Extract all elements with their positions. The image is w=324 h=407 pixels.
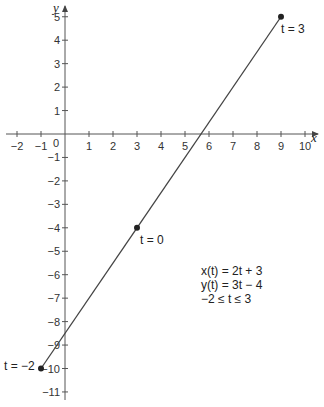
y-tick-label: −1	[47, 151, 60, 163]
point-label: t = 3	[281, 22, 305, 36]
y-tick-label: 1	[54, 105, 60, 117]
y-tick-label: −11	[42, 386, 60, 398]
y-tick-label: −7	[47, 292, 60, 304]
y-tick-label: −2	[47, 175, 60, 187]
y-tick-label: 2	[54, 81, 60, 93]
x-tick-label: 5	[182, 140, 188, 152]
x-tick-label: 9	[278, 140, 284, 152]
y-tick-label: −4	[47, 222, 60, 234]
x-axis-label: x	[310, 130, 317, 145]
point-label: t = 0	[140, 233, 164, 247]
equation-1: x(t) = 2t + 3	[201, 264, 263, 278]
y-tick-label: −8	[47, 316, 60, 328]
x-tick-label: 4	[158, 140, 164, 152]
x-tick-label: 1	[86, 140, 92, 152]
y-tick-label: −6	[47, 269, 60, 281]
point-label: t = −2	[4, 359, 35, 373]
y-axis-label: y	[51, 0, 59, 15]
y-tick-label: 4	[54, 34, 60, 46]
x-tick-label: 2	[110, 140, 116, 152]
equation-2: y(t) = 3t − 4	[201, 278, 263, 292]
x-tick-label: 10	[299, 140, 311, 152]
y-tick-label: 3	[54, 58, 60, 70]
data-series	[38, 14, 284, 372]
data-point	[134, 225, 140, 231]
origin-label: 0	[53, 137, 59, 149]
ticks: −2−101234567891054321−1−2−3−4−5−6−7−8−9−…	[11, 11, 311, 398]
data-point	[278, 14, 284, 20]
data-point	[38, 366, 44, 372]
x-tick-label: −1	[35, 140, 48, 152]
y-tick-label: −3	[47, 198, 60, 210]
x-tick-label: −2	[11, 140, 24, 152]
x-tick-label: 3	[134, 140, 140, 152]
parametric-line	[41, 17, 281, 369]
parametric-chart: −2−101234567891054321−1−2−3−4−5−6−7−8−9−…	[0, 0, 324, 407]
x-tick-label: 6	[206, 140, 212, 152]
y-tick-label: −5	[47, 245, 60, 257]
x-tick-label: 8	[254, 140, 260, 152]
equation-3: −2 ≤ t ≤ 3	[201, 292, 252, 306]
x-tick-label: 7	[230, 140, 236, 152]
